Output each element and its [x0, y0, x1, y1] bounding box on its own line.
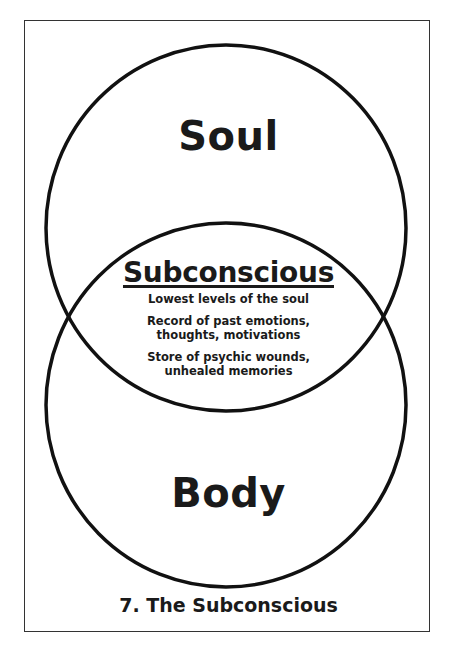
note-store-of-wounds: Store of psychic wounds, unhealed memori…: [0, 350, 457, 378]
soul-label: Soul: [0, 113, 457, 159]
subconscious-notes: Lowest levels of the soul Record of past…: [0, 292, 457, 386]
note-lowest-levels: Lowest levels of the soul: [0, 292, 457, 306]
subconscious-title: Subconscious: [0, 256, 457, 289]
note-record-of-past: Record of past emotions, thoughts, motiv…: [0, 314, 457, 342]
figure-caption: 7. The Subconscious: [0, 594, 457, 616]
body-label: Body: [0, 470, 457, 516]
